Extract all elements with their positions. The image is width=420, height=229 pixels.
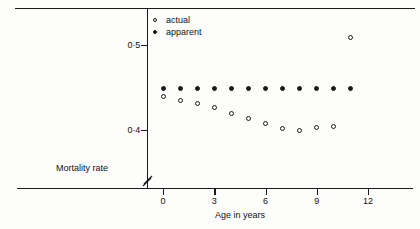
data-point-actual xyxy=(212,105,217,110)
x-axis-title-text: Age in years xyxy=(215,210,265,220)
open-circle-icon xyxy=(152,14,164,26)
data-point-apparent xyxy=(195,86,200,91)
data-point-apparent xyxy=(280,86,285,91)
x-tick xyxy=(266,189,267,195)
data-point-actual xyxy=(229,111,234,116)
y-tick xyxy=(141,45,148,46)
data-point-apparent xyxy=(246,86,251,91)
x-tick-label: 3 xyxy=(204,196,224,206)
chart-legend: actualapparent xyxy=(152,14,202,38)
y-tick-label: 0·5 xyxy=(120,40,140,50)
y-tick xyxy=(141,130,148,131)
x-tick xyxy=(214,189,215,195)
data-point-apparent xyxy=(229,86,234,91)
legend-item-label: actual xyxy=(164,15,190,25)
data-point-apparent xyxy=(297,86,302,91)
data-point-actual xyxy=(178,98,183,103)
data-point-actual xyxy=(280,126,285,131)
filled-circle-icon xyxy=(152,26,164,38)
data-point-actual xyxy=(348,35,353,40)
data-point-actual xyxy=(331,124,336,129)
legend-item: apparent xyxy=(152,26,202,38)
x-tick-label: 12 xyxy=(358,196,378,206)
x-tick-label: 0 xyxy=(153,196,173,206)
axis-break-icon xyxy=(141,173,155,189)
data-point-apparent xyxy=(263,86,268,91)
data-point-apparent xyxy=(348,86,353,91)
data-point-apparent xyxy=(331,86,336,91)
data-point-actual xyxy=(161,94,166,99)
data-point-apparent xyxy=(161,86,166,91)
chart-figure: 0·50·4 036912 Mortality rate Age in year… xyxy=(0,0,420,229)
x-tick xyxy=(163,189,164,195)
data-point-actual xyxy=(263,121,268,126)
data-point-actual xyxy=(246,116,251,121)
legend-item-label: apparent xyxy=(164,27,202,37)
y-tick-label: 0·4 xyxy=(120,125,140,135)
top-border-rule xyxy=(15,8,415,9)
x-tick-label: 6 xyxy=(256,196,276,206)
y-axis-title: Mortality rate xyxy=(56,163,108,173)
data-point-apparent xyxy=(212,86,217,91)
data-point-apparent xyxy=(314,86,319,91)
x-tick xyxy=(317,189,318,195)
x-tick xyxy=(368,189,369,195)
y-axis-line xyxy=(147,8,148,189)
x-axis-title: Age in years xyxy=(0,210,420,220)
legend-item: actual xyxy=(152,14,202,26)
x-tick-label: 9 xyxy=(307,196,327,206)
data-point-apparent xyxy=(178,86,183,91)
data-point-actual xyxy=(297,128,302,133)
data-point-actual xyxy=(195,101,200,106)
data-point-actual xyxy=(314,125,319,130)
